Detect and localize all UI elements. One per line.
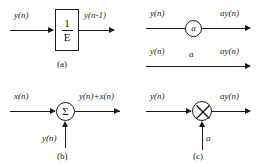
gain-row1-output-label: ay(n) xyxy=(220,9,239,18)
panel-b-second-input-label: y(n) xyxy=(42,134,57,143)
gain-row1-input-label: y(n) xyxy=(150,9,165,18)
panel-a-delay-block: 1 E xyxy=(55,9,79,51)
gain-row1-output-arrowhead xyxy=(245,25,251,31)
delay-fraction: 1 E xyxy=(62,18,73,43)
panel-b-second-input-wire xyxy=(65,126,66,148)
gain-row1-multiplier-circle: a xyxy=(185,20,202,37)
gain-row1-output-wire xyxy=(202,28,250,29)
panel-c-second-input-label: a xyxy=(206,134,211,143)
delay-denominator: E xyxy=(62,31,73,43)
panel-b-input-wire xyxy=(10,111,55,112)
gain-row2-arrowhead xyxy=(245,63,251,69)
panel-gain-notations: y(n) a ay(n) y(n) a ay(n) xyxy=(131,0,262,84)
panel-b-caption: (b) xyxy=(57,152,68,161)
summation-sigma-glyph: Σ xyxy=(62,106,68,117)
gain-row2-wire xyxy=(146,66,250,67)
multiplier-cross-icon xyxy=(193,102,213,122)
panel-c-multiplier-circle xyxy=(192,101,212,121)
gain-row1-input-wire xyxy=(146,28,189,29)
panel-a-output-label: y(n-1) xyxy=(84,11,106,20)
panel-b-output-label: y(n)+x(n) xyxy=(79,92,114,101)
panel-b-output-arrowhead xyxy=(114,108,120,114)
panel-a-caption: (a) xyxy=(57,60,67,69)
panel-c-caption: (c) xyxy=(193,152,203,161)
gain-row2-input-label: y(n) xyxy=(150,47,165,56)
panel-a-output-arrowhead xyxy=(109,27,115,33)
panel-c-input-wire xyxy=(146,111,191,112)
panel-b-input-label: x(n) xyxy=(14,92,29,101)
panel-c-second-input-arrowhead xyxy=(199,121,205,127)
gain-row2-coefficient-label: a xyxy=(189,50,194,59)
delay-numerator: 1 xyxy=(62,18,72,30)
gain-row2-output-label: ay(n) xyxy=(220,47,239,56)
panel-b-summer-circle: Σ xyxy=(56,102,75,121)
panel-c-multiplier: y(n) ay(n) a (c) xyxy=(131,84,262,167)
panel-b-second-input-arrowhead xyxy=(62,121,68,127)
panel-a-unit-delay: y(n) 1 E y(n-1) (a) xyxy=(0,0,131,84)
panel-c-input-label: y(n) xyxy=(150,92,165,101)
signal-flow-figure: y(n) 1 E y(n-1) (a) y(n) a ay(n) y(n) a xyxy=(0,0,262,167)
gain-row1-coefficient-label: a xyxy=(191,24,196,33)
panel-c-output-label: ay(n) xyxy=(220,92,239,101)
panel-b-summer: x(n) Σ y(n)+x(n) y(n) (b) xyxy=(0,84,131,167)
panel-c-output-arrowhead xyxy=(245,108,251,114)
panel-a-input-arrowhead xyxy=(48,27,54,33)
panel-c-second-input-wire xyxy=(202,126,203,150)
panel-a-input-label: y(n) xyxy=(14,11,29,20)
panel-a-input-wire xyxy=(10,30,53,31)
